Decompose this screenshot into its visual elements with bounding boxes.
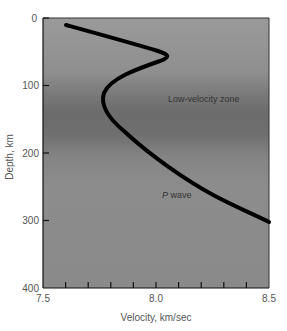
- y-axis-title: Depth, km: [4, 134, 15, 180]
- plot-area: [43, 18, 269, 288]
- y-tick-label-100: 100: [22, 80, 39, 91]
- velocity-depth-chart: 0 100 200 300 400 7.5 8.0 8.5 Velocity, …: [0, 0, 287, 331]
- y-tick-label-300: 300: [22, 215, 39, 226]
- x-tick-label-8-5: 8.5: [262, 293, 276, 304]
- p-wave-label-rest: wave: [168, 190, 192, 200]
- low-velocity-zone-label: Low-velocity zone: [168, 94, 240, 104]
- x-axis-title: Velocity, km/sec: [121, 312, 192, 323]
- y-tick-label-0: 0: [31, 13, 37, 24]
- x-tick-label-7-5: 7.5: [36, 293, 50, 304]
- y-tick-label-200: 200: [22, 148, 39, 159]
- p-wave-label: P wave: [162, 190, 192, 200]
- x-tick-label-8-0: 8.0: [149, 293, 163, 304]
